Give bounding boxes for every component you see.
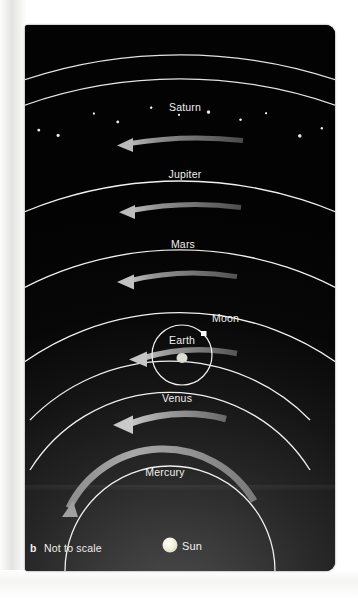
arrow-jupiter — [119, 204, 241, 219]
orbit-earth — [30, 361, 310, 420]
sun-group — [163, 538, 178, 553]
moon-body — [201, 331, 207, 336]
star-dot — [116, 120, 120, 124]
figure-panel-label: b — [30, 542, 37, 554]
star-dot — [150, 106, 153, 109]
arrow-mercury — [62, 449, 254, 517]
star-dot — [206, 110, 210, 114]
solar-system-diagram-panel: Saturn Jupiter Mars Earth Moon Venus Mer… — [25, 25, 335, 571]
star-band-group — [25, 55, 335, 138]
label-mercury: Mercury — [145, 466, 185, 478]
star-dot — [56, 133, 60, 137]
label-sun: Sun — [182, 540, 202, 552]
page-bottom-margin — [0, 570, 358, 598]
label-earth: Earth — [169, 334, 195, 346]
arrow-saturn — [117, 138, 243, 152]
star-band-outer-arc — [25, 55, 335, 105]
star-dot — [298, 134, 302, 138]
star-dot — [37, 128, 41, 132]
star-dot — [320, 127, 323, 130]
star-dot — [239, 118, 242, 121]
arrow-mars — [117, 273, 237, 289]
orbit-jupiter — [25, 250, 335, 315]
arrow-venus — [113, 414, 226, 434]
label-venus: Venus — [162, 392, 192, 404]
label-mars: Mars — [171, 238, 195, 250]
label-jupiter: Jupiter — [169, 168, 202, 180]
star-dot — [92, 112, 95, 115]
label-moon: Moon — [212, 312, 239, 324]
not-to-scale-note: Not to scale — [44, 542, 102, 554]
label-saturn: Saturn — [169, 101, 201, 113]
solar-system-svg: Saturn Jupiter Mars Earth Moon Venus Mer… — [25, 25, 335, 571]
star-dot — [265, 112, 268, 115]
book-gutter-shadow — [0, 0, 26, 598]
sun-body — [163, 538, 178, 553]
star-dot — [177, 113, 180, 116]
earth-body — [177, 353, 188, 363]
